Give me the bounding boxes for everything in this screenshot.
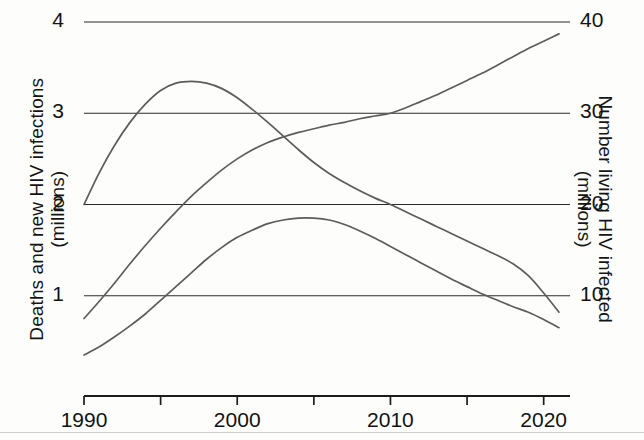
y-tick-label-1: 1 bbox=[34, 282, 64, 306]
x-tick-label-2020: 2020 bbox=[504, 408, 584, 432]
y-tick-label-2: 2 bbox=[34, 191, 64, 215]
y2-tick-label-40: 40 bbox=[580, 8, 620, 32]
caption-divider bbox=[0, 432, 644, 433]
y2-tick-label-20: 20 bbox=[580, 191, 620, 215]
y2-tick-label-10: 10 bbox=[580, 282, 620, 306]
series-group bbox=[84, 34, 559, 355]
x-tick-label-2010: 2010 bbox=[350, 408, 430, 432]
x-axis bbox=[84, 396, 570, 405]
x-tick-label-2000: 2000 bbox=[197, 408, 277, 432]
y2-tick-label-30: 30 bbox=[580, 99, 620, 123]
y-tick-label-3: 3 bbox=[34, 99, 64, 123]
series-line-1 bbox=[84, 218, 559, 355]
series-line-2 bbox=[84, 34, 559, 319]
chart-figure: Deaths and new HIV infections (millions)… bbox=[0, 0, 644, 440]
x-tick-label-1990: 1990 bbox=[44, 408, 124, 432]
series-line-0 bbox=[84, 81, 559, 312]
y-tick-label-4: 4 bbox=[34, 8, 64, 32]
plot-svg bbox=[0, 0, 644, 440]
